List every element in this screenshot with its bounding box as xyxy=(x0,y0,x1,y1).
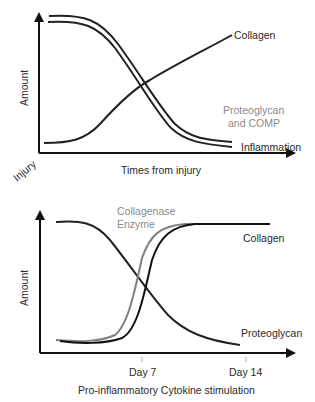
bottom-proteoglycan-curve xyxy=(56,221,240,345)
day7-label: Day 7 xyxy=(129,366,157,378)
day14-label: Day 14 xyxy=(229,366,262,378)
top-collagen-label: Collagen xyxy=(234,29,276,41)
top-y-axis-label: Amount xyxy=(18,70,30,106)
bottom-proteoglycan-label: Proteoglycan xyxy=(241,327,302,339)
top-inflammation-label: Inflammation xyxy=(241,141,301,153)
top-collagen-curve xyxy=(44,35,232,143)
top-proteoglycan-curve xyxy=(49,16,232,142)
bottom-y-axis-label: Amount xyxy=(18,270,30,306)
collagenase-label-line1: Collagenase xyxy=(117,205,176,217)
top-x-axis-label: Times from injury xyxy=(121,164,202,176)
bottom-collagenase-curve xyxy=(56,224,255,341)
top-inflammation-curve xyxy=(48,22,232,147)
injury-label: Injury xyxy=(11,157,39,183)
top-proteoglycan-label-line2: and COMP xyxy=(228,117,280,129)
top-proteoglycan-label-line1: Proteoglycan xyxy=(223,104,284,116)
bottom-collagen-label: Collagen xyxy=(243,232,285,244)
collagenase-label-line2: Enzyme xyxy=(117,218,155,230)
bottom-chart: Collagenase Enzyme Collagen Proteoglycan… xyxy=(18,205,302,396)
bottom-x-axis-label: Pro-inflammatory Cytokine stimulation xyxy=(78,384,255,396)
top-chart: Collagen Proteoglycan and COMP Inflammat… xyxy=(11,14,302,184)
bottom-collagen-curve xyxy=(60,224,270,343)
diagram-canvas: Collagen Proteoglycan and COMP Inflammat… xyxy=(0,0,315,402)
